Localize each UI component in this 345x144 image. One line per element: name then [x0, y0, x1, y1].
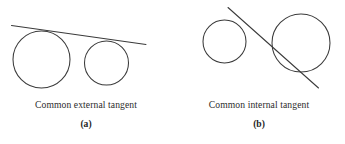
panel-b-small-circle [203, 20, 246, 63]
panel-a-small-circle [85, 41, 129, 85]
panel-a-graphics [12, 26, 147, 89]
panel-a-caption: Common external tangent [0, 100, 172, 111]
panel-a-letter: (a) [0, 119, 172, 130]
panel-b-internal-tangent-line [228, 8, 319, 89]
panel-b-letter: (b) [173, 119, 345, 130]
panel-b-caption: Common internal tangent [173, 100, 345, 111]
panel-a-external-tangent-line [12, 26, 147, 45]
panel-b-large-circle [272, 14, 330, 72]
figure-root: Common external tangent (a) Common inter… [0, 0, 345, 144]
panel-a-large-circle [13, 31, 70, 88]
panel-b-graphics [203, 8, 330, 89]
